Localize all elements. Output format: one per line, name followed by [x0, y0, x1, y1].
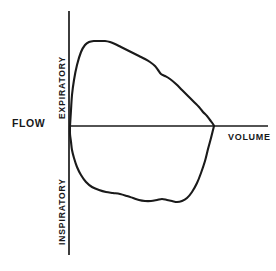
y-axis-label-flow: FLOW [12, 118, 45, 129]
inspiratory-curve [70, 126, 214, 202]
expiratory-curve [70, 41, 214, 126]
loop-curves-group [70, 41, 214, 202]
expiratory-axis-label: EXPIRATORY [58, 56, 67, 119]
flow-volume-loop-figure: FLOW VOLUME EXPIRATORY INSPIRATORY [0, 0, 276, 271]
x-axis-label-volume: VOLUME [228, 133, 271, 142]
inspiratory-axis-label: INSPIRATORY [58, 178, 67, 245]
